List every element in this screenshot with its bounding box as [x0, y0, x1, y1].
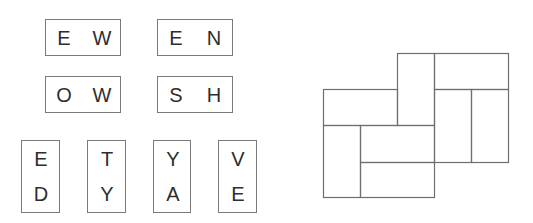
puzzle-grid [0, 0, 533, 223]
grid-piece-vertical [324, 126, 361, 198]
grid-piece-horizontal [324, 90, 398, 126]
grid-piece-horizontal [361, 126, 435, 163]
grid-piece-vertical [435, 90, 472, 163]
grid-piece-horizontal [361, 163, 435, 198]
grid-piece-vertical [472, 90, 509, 163]
grid-piece-horizontal [435, 54, 509, 90]
grid-piece-vertical [398, 54, 435, 126]
